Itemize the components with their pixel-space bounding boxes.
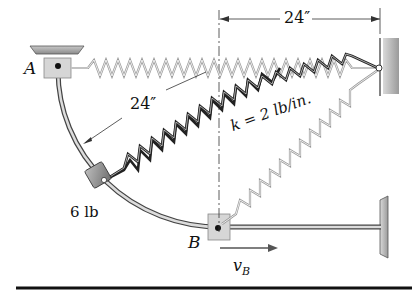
velocity-label: vB <box>233 256 250 278</box>
point-b-label: B <box>188 232 201 252</box>
rod-end-support <box>380 196 388 258</box>
collar-weight-label: 6 lb <box>70 203 99 221</box>
diagram-canvas <box>0 0 416 295</box>
wall-support-right <box>380 38 399 96</box>
spring-at-position-a <box>71 60 378 76</box>
velocity-symbol: v <box>233 256 242 275</box>
wall-pin <box>376 65 382 71</box>
collar-position-a <box>44 58 71 78</box>
horizontal-dimension-label: 24″ <box>284 8 310 27</box>
ceiling-support-a <box>30 46 84 54</box>
radius-dimension-label: 24″ <box>130 94 156 113</box>
velocity-arrow <box>220 244 278 252</box>
velocity-subscript: B <box>242 265 250 278</box>
point-a-label: A <box>24 58 36 78</box>
